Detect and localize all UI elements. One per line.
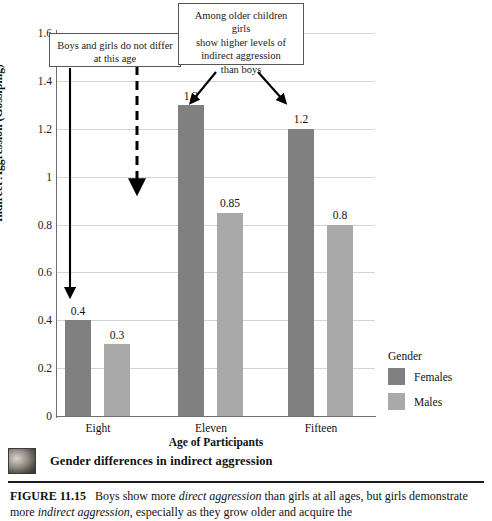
caption-heading-row: Gender differences in indirect aggressio… [0, 448, 492, 474]
legend-label-females: Females [414, 371, 452, 383]
figure-caption: FIGURE 11.15Boys show more direct aggres… [10, 489, 482, 521]
y-tick-0.8: 0.8 [0, 219, 52, 231]
figure-number: FIGURE 11.15 [10, 489, 86, 503]
bar-eleven-males[interactable] [217, 213, 243, 417]
bar-eight-males[interactable] [104, 344, 130, 416]
callout-left: Boys and girls do not differ at this age [49, 33, 181, 67]
legend-swatch-females [388, 368, 405, 385]
value-label-fifteen-males: 0.8 [317, 209, 363, 221]
legend: Gender Females Males [388, 350, 452, 418]
callout-left-line2: at this age [94, 53, 137, 64]
x-category-fifteen: Fifteen [276, 422, 366, 434]
y-tick-1.2: 1.2 [0, 123, 52, 135]
callout-right-line1: Among older children girls [195, 10, 288, 34]
y-tick-0.2: 0.2 [0, 362, 52, 374]
x-category-eleven: Eleven [166, 422, 256, 434]
caption-text-3: , especially as they grow older and acqu… [130, 505, 352, 519]
callout-right-line3: indirect aggression [201, 50, 281, 61]
callout-right-line2: show higher levels of [196, 37, 286, 48]
bar-eight-females[interactable] [65, 320, 91, 416]
bar-chart: 0 0.2 0.4 0.6 0.8 1 1.2 1.4 1.6 Indirect… [0, 0, 492, 445]
value-label-eleven-females: 1.3 [168, 90, 214, 102]
plot-area [57, 33, 375, 416]
bar-fifteen-females[interactable] [288, 129, 314, 416]
caption-block: Gender differences in indirect aggressio… [0, 448, 492, 521]
bar-eleven-females[interactable] [178, 105, 204, 416]
horizontal-rule [8, 481, 484, 483]
y-axis-line [56, 30, 57, 418]
caption-text-1: Boys show more [95, 489, 179, 503]
callout-right-line4: than boys [221, 64, 262, 75]
value-label-eight-females: 0.4 [55, 305, 101, 317]
value-label-eleven-males: 0.85 [207, 197, 253, 209]
gridline-1.4 [57, 81, 375, 82]
value-label-fifteen-females: 1.2 [278, 113, 324, 125]
gridline-1.2 [57, 129, 375, 130]
caption-italic-2: indirect aggression [38, 505, 130, 519]
y-tick-0.6: 0.6 [0, 266, 52, 278]
caption-italic-1: direct aggression [179, 489, 262, 503]
x-axis-title: Age of Participants [57, 436, 375, 448]
y-axis-title: Indirect Aggression (Gossiping) [0, 64, 4, 222]
legend-item-males[interactable]: Males [388, 393, 452, 410]
callout-right: Among older children girls show higher l… [178, 3, 304, 65]
y-tick-1.6: 1.6 [0, 27, 52, 39]
x-axis-line [56, 416, 376, 417]
gridline-1.0 [57, 177, 375, 178]
y-tick-0.4: 0.4 [0, 314, 52, 326]
caption-heading: Gender differences in indirect aggressio… [50, 454, 273, 469]
y-tick-1: 1 [0, 171, 52, 183]
legend-swatch-males [388, 393, 405, 410]
y-tick-0: 0 [0, 410, 52, 422]
legend-label-males: Males [414, 396, 442, 408]
x-category-eight: Eight [53, 422, 143, 434]
bar-fifteen-males[interactable] [327, 225, 353, 417]
legend-title: Gender [388, 350, 452, 362]
legend-item-females[interactable]: Females [388, 368, 452, 385]
y-tick-1.4: 1.4 [0, 75, 52, 87]
callout-left-line1: Boys and girls do not differ [57, 40, 173, 51]
photo-thumbnail-icon [8, 448, 36, 474]
value-label-eight-males: 0.3 [94, 329, 140, 341]
